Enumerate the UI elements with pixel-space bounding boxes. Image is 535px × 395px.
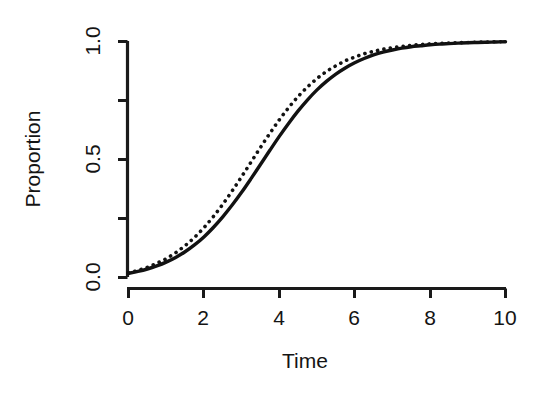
y-axis-title: Proportion <box>21 111 44 208</box>
x-axis-title: Time <box>282 349 328 372</box>
series-dotted-curve <box>129 42 506 273</box>
x-tick-label-1: 2 <box>197 306 209 329</box>
y-tick-label-0: 0.0 <box>81 262 104 291</box>
x-tick-label-2: 4 <box>273 306 285 329</box>
x-tick-label-0: 0 <box>122 306 134 329</box>
series-solid-curve <box>129 42 506 274</box>
y-tick-labels: 0.0 0.5 1.0 <box>81 26 104 291</box>
x-tick-label-3: 6 <box>348 306 360 329</box>
x-tick-labels: 0 2 4 6 8 10 <box>122 306 517 329</box>
y-tick-label-1: 0.5 <box>81 144 104 173</box>
x-tick-label-5: 10 <box>493 306 516 329</box>
y-tick-label-2: 1.0 <box>81 26 104 55</box>
chart-figure: 0.0 0.5 1.0 0 2 4 6 8 10 Time Proportion <box>0 0 535 395</box>
chart-plot-area: 0.0 0.5 1.0 0 2 4 6 8 10 Time Proportion <box>0 0 535 395</box>
x-tick-label-4: 8 <box>424 306 436 329</box>
